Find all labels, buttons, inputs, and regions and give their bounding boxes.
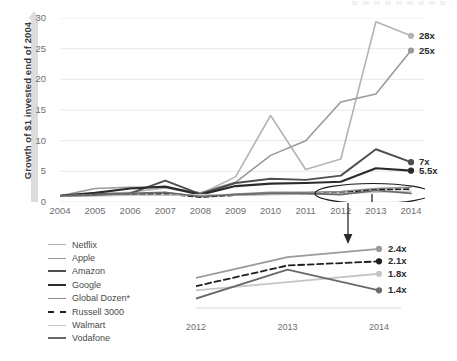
legend-item-walmart[interactable]: Walmart <box>48 318 178 331</box>
inset-x-tick-2012: 2012 <box>176 322 216 332</box>
legend-item-apple[interactable]: Apple <box>48 251 178 264</box>
inset-end-label-1.4x: 1.4x <box>388 284 407 295</box>
legend-swatch-icon <box>48 284 66 286</box>
legend-item-vodafone[interactable]: Vodafone <box>48 332 178 345</box>
inset-x-tick-2014: 2014 <box>359 322 399 332</box>
legend-swatch-icon <box>48 325 66 326</box>
inset-end-marker-global-dozen- <box>376 246 382 252</box>
legend-label: Netflix <box>72 240 97 250</box>
y-tick-20: 20 <box>20 73 46 84</box>
legend-swatch-icon <box>48 298 66 299</box>
inset-end-marker-walmart <box>376 271 382 277</box>
legend-label: Apple <box>72 253 95 263</box>
x-tick-2010: 2010 <box>254 205 288 216</box>
legend-label: Google <box>72 280 101 290</box>
end-label-28x: 28x <box>419 30 435 41</box>
legend-item-netflix[interactable]: Netflix <box>48 238 178 251</box>
end-marker-apple <box>408 47 414 53</box>
inset-chart-svg <box>196 238 401 316</box>
y-tick-5: 5 <box>20 165 46 176</box>
inset-line-walmart <box>196 274 379 291</box>
x-tick-2011: 2011 <box>289 205 323 216</box>
end-label-5.5x: 5.5x <box>419 165 438 176</box>
x-tick-2004: 2004 <box>43 205 77 216</box>
y-tick-25: 25 <box>20 43 46 54</box>
legend-item-global-dozen-[interactable]: Global Dozen* <box>48 292 178 305</box>
x-tick-2008: 2008 <box>183 205 217 216</box>
main-chart-svg <box>60 18 425 202</box>
inset-end-marker-vodafone <box>376 287 382 293</box>
legend-label: Global Dozen* <box>72 293 130 303</box>
cropped-header-strip <box>352 1 452 5</box>
legend-swatch-icon <box>48 311 66 313</box>
x-tick-2014: 2014 <box>394 205 428 216</box>
inset-series-lines <box>196 249 379 299</box>
end-label-25x: 25x <box>419 45 435 56</box>
line-netflix <box>60 22 411 196</box>
line-amazon <box>60 149 411 196</box>
legend-swatch-icon <box>48 270 66 272</box>
legend-swatch-icon <box>48 337 66 339</box>
chart-page: Growth of $1 invested end of 2004 302520… <box>0 0 457 361</box>
end-marker-google <box>408 168 414 174</box>
y-tick-15: 15 <box>20 104 46 115</box>
inset-end-label-2.4x: 2.4x <box>388 243 407 254</box>
inset-end-label-2.1x: 2.1x <box>388 255 407 266</box>
inset-end-marker-russell-3000 <box>376 258 382 264</box>
end-marker-amazon <box>408 159 414 165</box>
inset-end-markers <box>376 246 382 294</box>
y-tick-30: 30 <box>20 12 46 23</box>
end-marker-netflix <box>408 33 414 39</box>
legend: NetflixAppleAmazonGoogleGlobal Dozen*Rus… <box>48 238 178 345</box>
legend-item-amazon[interactable]: Amazon <box>48 265 178 278</box>
series-lines <box>60 22 411 197</box>
x-tick-2007: 2007 <box>148 205 182 216</box>
main-plot-area <box>60 18 425 202</box>
legend-label: Amazon <box>72 266 105 276</box>
x-tick-2013: 2013 <box>359 205 393 216</box>
inset-x-tick-2013: 2013 <box>268 322 308 332</box>
x-tick-2005: 2005 <box>78 205 112 216</box>
legend-label: Russell 3000 <box>72 307 124 317</box>
y-tick-10: 10 <box>20 135 46 146</box>
legend-label: Walmart <box>72 320 105 330</box>
legend-swatch-icon <box>48 258 66 259</box>
legend-item-russell-3000[interactable]: Russell 3000 <box>48 305 178 318</box>
y-axis-title: Growth of $1 invested end of 2004 <box>22 11 33 191</box>
legend-swatch-icon <box>48 244 66 245</box>
legend-label: Vodafone <box>72 333 110 343</box>
x-tick-2006: 2006 <box>113 205 147 216</box>
inset-line-vodafone <box>196 270 379 299</box>
inset-end-label-1.8x: 1.8x <box>388 268 407 279</box>
legend-item-google[interactable]: Google <box>48 278 178 291</box>
x-tick-2009: 2009 <box>219 205 253 216</box>
inset-plot-area <box>196 238 401 316</box>
